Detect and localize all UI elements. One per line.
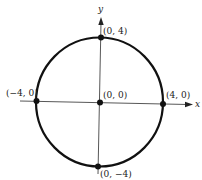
point-label-top: (0, 4): [103, 26, 127, 36]
point-dot-icon: [34, 98, 40, 104]
x-axis: x: [20, 99, 200, 109]
point-dot-icon: [160, 101, 166, 107]
point-left: (−4, 0): [6, 88, 40, 104]
x-axis-arrow-icon: [185, 102, 193, 107]
y-axis-arrow-icon: [98, 17, 103, 25]
point-label-right: (4, 0): [166, 90, 190, 100]
point-dot-icon: [97, 100, 103, 106]
x-axis-label: x: [195, 99, 200, 109]
y-axis-label: y: [97, 4, 104, 14]
point-label-bottom: (0, −4): [100, 169, 132, 179]
point-label-left: (−4, 0): [6, 88, 38, 98]
circle-diagram: x y (0, 4) (0, −4) (−4, 0) (4, 0) (0, 0): [0, 0, 202, 180]
point-label-origin: (0, 0): [103, 90, 127, 100]
